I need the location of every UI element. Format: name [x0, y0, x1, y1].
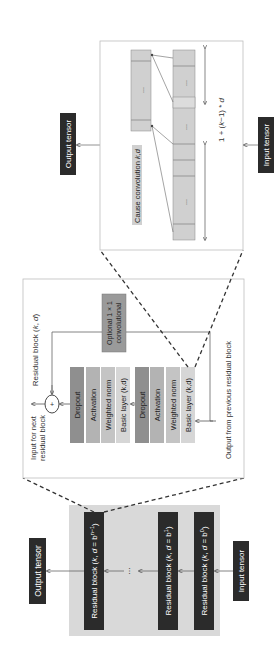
upper-layer-stack: Dropout Activation Weighted norm Basic l…: [70, 367, 130, 443]
input-for-next-label-line1: Input for next: [29, 415, 38, 460]
residual-panel-border: [23, 279, 244, 478]
svg-text:...: ...: [181, 124, 188, 130]
output-from-previous-label: Output from previous residual block: [224, 341, 233, 459]
optional-conv-label-line2: convolutional: [115, 302, 122, 343]
receptive-field-label: 1 + (k−1) * d: [217, 97, 226, 142]
svg-text:Dropout: Dropout: [138, 391, 147, 419]
causal-title: Cause convolution k,d: [133, 148, 142, 223]
causal-panel-border: [100, 41, 243, 250]
causal-input-tensor-label: Input tensor: [262, 124, 271, 167]
stack-panel: Output tensor Residual block (k, d = bn−…: [29, 505, 249, 636]
svg-text:Basic layer (k,d): Basic layer (k,d): [119, 378, 128, 432]
stack-input-tensor-label: Input tensor: [237, 550, 246, 593]
residual-block-1-label: Residual block (k, d = b1): [163, 526, 173, 615]
tcn-architecture-diagram: Output tensor Residual block (k, d = bn−…: [0, 0, 276, 672]
residual-block-title: Residual block (k, d): [31, 313, 40, 386]
svg-text:Dropout: Dropout: [73, 391, 82, 419]
svg-text:Weighted norm: Weighted norm: [104, 380, 113, 431]
svg-text:...: ...: [181, 199, 188, 205]
causal-output-ellipsis: ...: [138, 87, 145, 93]
optional-conv-label-line1: Optional 1 × 1: [106, 301, 114, 345]
svg-text:Basic layer (k,d): Basic layer (k,d): [184, 378, 193, 432]
plus-icon: +: [50, 401, 54, 408]
input-for-next-label-line2: residual block: [38, 415, 47, 461]
svg-text:Activation: Activation: [89, 389, 98, 422]
residual-panel: Input for next residual block Residual b…: [23, 279, 244, 478]
svg-text:Weighted norm: Weighted norm: [169, 380, 178, 431]
causal-output-tensor-label: Output tensor: [64, 119, 73, 168]
stack-output-tensor-label: Output tensor: [33, 545, 43, 597]
causal-panel: Output tensor Cause convolution k,d ... …: [60, 41, 274, 250]
causal-input-column: [173, 50, 195, 240]
svg-text:...: ...: [181, 80, 188, 86]
residual-block-0-label: Residual block (k, d = b0): [199, 526, 209, 615]
residual-block-n-minus-1-label: Residual block (k, d = bn−1): [89, 523, 99, 619]
svg-text:Activation: Activation: [153, 389, 162, 422]
causal-input-tap-1: [173, 97, 195, 108]
